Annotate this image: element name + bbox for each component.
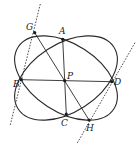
segment-GH [35,33,89,120]
label-H: H [85,123,94,133]
label-B: B [12,79,20,89]
label-D: D [113,77,121,87]
label-G: G [26,22,33,32]
point-G [33,31,36,34]
diagram-svg: GABPDCH [0,0,140,147]
point-D [110,80,113,83]
label-C: C [61,118,68,128]
label-A: A [58,26,66,36]
geometry-diagram: GABPDCH [0,0,140,147]
point-P [63,79,66,82]
point-H [87,118,90,121]
segment-AC [63,39,67,114]
point-A [61,38,64,41]
point-C [65,112,68,115]
point-B [20,78,23,81]
label-P: P [66,71,74,81]
